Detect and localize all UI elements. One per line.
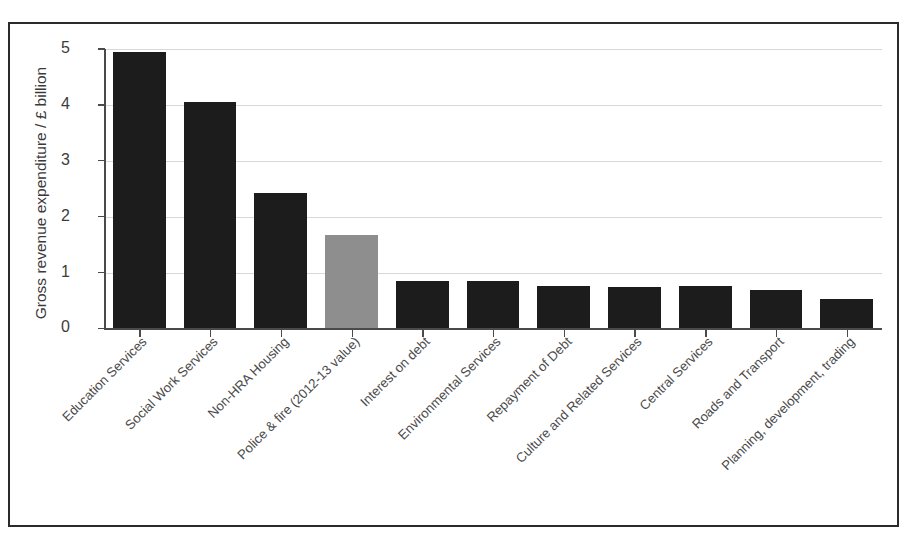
- bar-3: [325, 235, 378, 328]
- y-tick-label: 0: [44, 319, 70, 335]
- bar-7: [608, 287, 661, 328]
- bar-series: [82, 27, 882, 330]
- x-axis-category-labels: Education ServicesSocial Work ServicesNo…: [82, 334, 882, 524]
- bar-1: [184, 102, 237, 328]
- y-tick-label: 3: [44, 152, 70, 168]
- x-label-0: Education Services: [0, 334, 150, 546]
- y-tick-label: 5: [44, 40, 70, 56]
- plot-box: 012345: [82, 27, 882, 330]
- y-tick-label: 4: [44, 96, 70, 112]
- y-tick-label: 2: [44, 208, 70, 224]
- bar-0: [113, 52, 166, 329]
- bar-10: [820, 299, 873, 329]
- chart-figure-frame: Gross revenue expenditure / £ billion 01…: [8, 22, 899, 527]
- plot-area: Gross revenue expenditure / £ billion 01…: [10, 24, 897, 525]
- y-tick-label: 1: [44, 264, 70, 280]
- bar-8: [679, 286, 732, 328]
- bar-5: [467, 281, 520, 328]
- bar-6: [537, 286, 590, 328]
- y-axis-title: Gross revenue expenditure / £ billion: [32, 48, 50, 338]
- bar-4: [396, 281, 449, 328]
- bar-9: [750, 290, 803, 328]
- bar-2: [254, 193, 307, 328]
